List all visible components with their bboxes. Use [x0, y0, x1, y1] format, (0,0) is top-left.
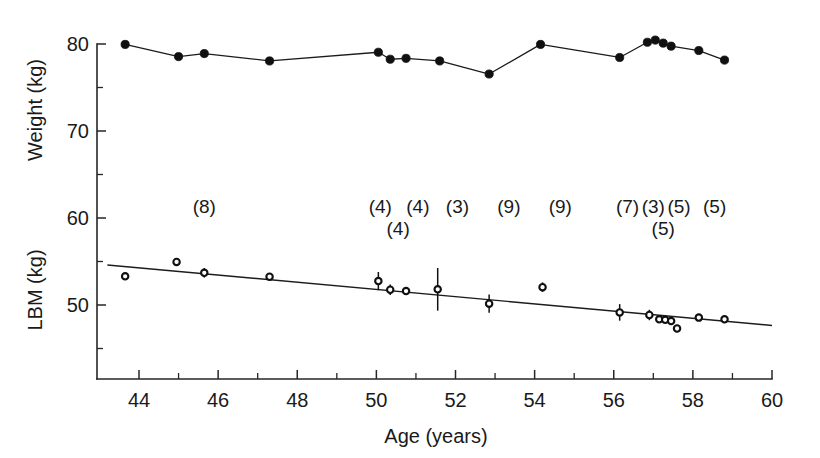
weight-data-point — [200, 49, 208, 57]
subject-count-label: (7) — [616, 196, 639, 217]
x-tick-label-44: 44 — [128, 389, 150, 411]
y-axis-title-lbm: LBM (kg) — [24, 249, 46, 330]
x-tick-label-52: 52 — [444, 389, 466, 411]
weight-data-point — [667, 42, 675, 50]
weight-data-point — [616, 53, 624, 61]
figure-root: 50607080 444648505254565860 (8)(4)(4)(4)… — [0, 0, 820, 458]
subject-count-label: (9) — [497, 196, 520, 217]
lbm-data-point — [668, 318, 674, 324]
y-axis-title-weight: Weight (kg) — [24, 59, 46, 161]
weight-data-point — [265, 57, 273, 65]
lbm-data-point — [375, 278, 381, 284]
weight-data-point — [651, 36, 659, 44]
y-tick-label-80: 80 — [67, 33, 89, 55]
weight-data-point — [485, 70, 493, 78]
x-tick-label-60: 60 — [761, 389, 783, 411]
lbm-data-point — [616, 309, 622, 315]
lbm-data-point — [266, 274, 272, 280]
subject-count-label: (9) — [549, 196, 572, 217]
weight-data-point — [643, 38, 651, 46]
weight-data-point — [121, 40, 129, 48]
lbm-data-point — [674, 325, 680, 331]
lbm-data-point — [696, 314, 702, 320]
subject-count-label: (3) — [642, 196, 665, 217]
x-tick-label-58: 58 — [682, 389, 704, 411]
weight-data-point — [374, 48, 382, 56]
lbm-data-point — [387, 287, 393, 293]
weight-data-point — [436, 57, 444, 65]
x-axis-title: Age (years) — [384, 425, 487, 447]
lbm-data-point — [435, 286, 441, 292]
x-tick-label-54: 54 — [524, 389, 546, 411]
lbm-data-point — [486, 300, 492, 306]
x-tick-label-56: 56 — [603, 389, 625, 411]
lbm-data-point — [122, 273, 128, 279]
weight-data-point — [720, 56, 728, 64]
weight-data-point — [536, 40, 544, 48]
x-tick-label-46: 46 — [207, 389, 229, 411]
weight-data-point — [695, 46, 703, 54]
subject-count-label: (8) — [193, 196, 216, 217]
weight-data-point — [402, 54, 410, 62]
subject-count-label: (5) — [703, 196, 726, 217]
subject-count-label: (3) — [446, 196, 469, 217]
x-tick-label-50: 50 — [365, 389, 387, 411]
subject-count-label: (4) — [369, 196, 392, 217]
subject-count-label: (4) — [406, 196, 429, 217]
lbm-data-point — [539, 284, 545, 290]
lbm-data-point — [646, 312, 652, 318]
subject-count-label: (4) — [387, 218, 410, 239]
y-tick-label-50: 50 — [67, 294, 89, 316]
lbm-data-point — [173, 259, 179, 265]
lbm-data-point — [721, 316, 727, 322]
lbm-data-point — [201, 270, 207, 276]
weight-data-point — [386, 55, 394, 63]
y-tick-label-70: 70 — [67, 120, 89, 142]
subject-count-label: (5) — [652, 218, 675, 239]
y-tick-label-60: 60 — [67, 207, 89, 229]
lbm-data-point — [403, 288, 409, 294]
weight-data-point — [174, 53, 182, 61]
scatter-line-chart: 50607080 444648505254565860 (8)(4)(4)(4)… — [0, 0, 820, 458]
weight-data-point — [659, 39, 667, 47]
x-tick-label-48: 48 — [286, 389, 308, 411]
subject-count-label: (5) — [667, 196, 690, 217]
